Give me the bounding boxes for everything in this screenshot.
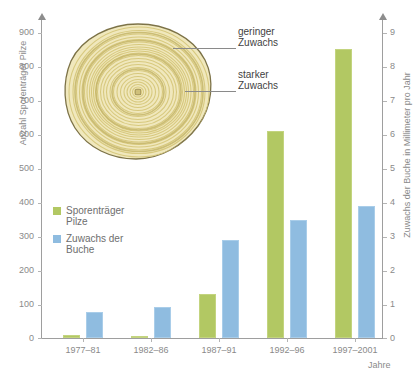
callout-leader-line-2: [185, 91, 236, 92]
bar-green-5[interactable]: [335, 49, 352, 338]
bar-green-3[interactable]: [199, 294, 216, 338]
right-tick-label-6: 6: [390, 130, 395, 139]
legend-label-2: Zuwachs der Buche: [66, 233, 146, 255]
bar-blue-4[interactable]: [290, 220, 307, 338]
bar-blue-2[interactable]: [154, 307, 171, 338]
right-tick-0: [383, 338, 387, 339]
x-tick-3: [219, 338, 220, 342]
tree-ring-cross-section-illustration: [62, 22, 214, 162]
x-tick-5: [355, 338, 356, 342]
callout-1-line-1: geringer: [238, 26, 278, 37]
left-tick-label-400: 400: [6, 198, 34, 207]
bar-blue-1[interactable]: [86, 312, 103, 338]
callout-1-line-2: Zuwachs: [238, 37, 278, 48]
x-category-label-2: 1982–86: [117, 345, 185, 355]
left-tick-label-0: 0: [6, 334, 34, 343]
x-tick-4: [287, 338, 288, 342]
x-axis-line: [41, 338, 383, 339]
callout-leader-line-1: [173, 48, 236, 49]
callout-label-geringer-zuwachs: geringer Zuwachs: [238, 26, 278, 48]
chart-legend: Sporenträger Pilze Zuwachs der Buche: [53, 205, 146, 261]
left-axis-title: Anzahl Sporenträger Pilze: [18, 18, 28, 168]
right-tick-6: [383, 135, 387, 136]
x-tick-1: [83, 338, 84, 342]
right-tick-7: [383, 101, 387, 102]
right-tick-label-7: 7: [390, 96, 395, 105]
left-tick-label-100: 100: [6, 300, 34, 309]
bar-green-2[interactable]: [131, 336, 148, 338]
right-tick-3: [383, 237, 387, 238]
right-tick-label-9: 9: [390, 28, 395, 37]
bar-green-4[interactable]: [267, 131, 284, 338]
right-tick-2: [383, 271, 387, 272]
left-tick-label-300: 300: [6, 232, 34, 241]
pith-center: [136, 90, 141, 95]
legend-swatch-green-icon: [53, 207, 61, 215]
right-tick-label-8: 8: [390, 62, 395, 71]
right-tick-9: [383, 33, 387, 34]
callout-2-line-2: Zuwachs: [238, 80, 278, 91]
x-tick-2: [151, 338, 152, 342]
left-axis-arrow-icon: [38, 13, 46, 20]
right-tick-label-3: 3: [390, 232, 395, 241]
right-tick-4: [383, 203, 387, 204]
left-tick-label-200: 200: [6, 266, 34, 275]
chart-container: 900 800 700 600 500 400 300 200 100 0 9 …: [0, 0, 417, 378]
right-tick-label-0: 0: [390, 334, 395, 343]
right-tick-5: [383, 169, 387, 170]
bar-blue-5[interactable]: [358, 206, 375, 338]
bar-group-5: [321, 20, 381, 338]
left-tick-0: [38, 338, 42, 339]
x-axis-title: Jahre: [368, 360, 391, 370]
legend-item-sporentraeger-pilze[interactable]: Sporenträger Pilze: [53, 205, 146, 227]
right-tick-label-1: 1: [390, 300, 395, 309]
x-category-label-4: 1992–96: [253, 345, 321, 355]
right-tick-1: [383, 305, 387, 306]
right-tick-8: [383, 67, 387, 68]
bar-group-4: [253, 20, 313, 338]
right-axis-title: Zuwachs der Buche in Millimeter pro Jahr: [402, 70, 412, 240]
legend-item-zuwachs-der-buche[interactable]: Zuwachs der Buche: [53, 233, 146, 255]
bar-blue-3[interactable]: [222, 240, 239, 338]
right-tick-label-5: 5: [390, 164, 395, 173]
bar-green-1[interactable]: [63, 335, 80, 338]
legend-label-1: Sporenträger Pilze: [66, 205, 146, 227]
legend-swatch-blue-icon: [53, 235, 61, 243]
right-axis-arrow-icon: [379, 13, 387, 20]
x-category-label-5: 1997–2001: [321, 345, 389, 355]
right-tick-label-4: 4: [390, 198, 395, 207]
callout-2-line-1: starker: [238, 69, 278, 80]
callout-label-starker-zuwachs: starker Zuwachs: [238, 69, 278, 91]
x-category-label-3: 1987–91: [185, 345, 253, 355]
x-category-label-1: 1977–81: [49, 345, 117, 355]
right-tick-label-2: 2: [390, 266, 395, 275]
